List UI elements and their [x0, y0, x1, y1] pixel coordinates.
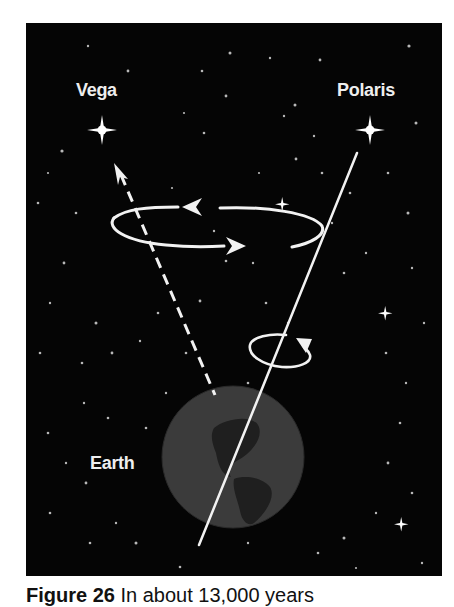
- axis-future-arrowhead-icon: [114, 163, 128, 185]
- polaris-label: Polaris: [337, 80, 395, 101]
- rotation-arrow-icon: [296, 338, 312, 353]
- sparkle-star-icon: [378, 306, 392, 320]
- figure-caption: Figure 26 In about 13,000 years: [26, 584, 454, 607]
- figure-number: Figure 26: [26, 584, 115, 606]
- earth-axis-cover: [164, 388, 302, 526]
- vega-label: Vega: [76, 80, 117, 101]
- sparkle-star-icon: [394, 517, 408, 531]
- caption-text: In about 13,000 years: [120, 584, 313, 606]
- precession-arrow-right-icon: [226, 237, 246, 255]
- earth-label: Earth: [90, 453, 135, 474]
- diagram-panel: Vega Polaris Earth: [26, 23, 442, 576]
- precession-arrow-left-icon: [182, 198, 202, 216]
- vega-star-icon: [87, 115, 117, 145]
- precession-diagram: [26, 23, 442, 576]
- polaris-star-icon: [355, 115, 385, 145]
